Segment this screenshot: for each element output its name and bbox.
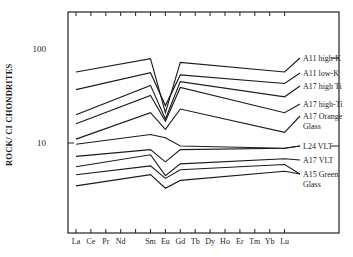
x-tick-label: La [72,237,81,246]
series-line [76,58,300,113]
series-line [76,82,300,119]
x-tick-label: Tb [191,237,200,246]
series-lines [76,58,300,188]
y-axis-ticks: 10100 [33,44,340,148]
ree-pattern-chart: LaCePrNdSmEuGdTbDyHoErTmYbLu 10100 A11 h… [0,0,353,257]
x-tick-label: Dy [205,237,215,246]
series-label: Glass [303,180,321,189]
series-line [76,87,300,123]
series-label: A17 VLT [303,156,334,165]
plot-frame [68,12,339,233]
series-label: L24 VLT [303,142,333,151]
series-label: A17 Orange [303,112,343,121]
series-line [76,165,300,179]
x-tick-label: Pr [102,237,109,246]
y-tick-label: 10 [37,138,47,148]
y-tick-label: 100 [33,44,47,54]
x-tick-label: Ce [86,237,95,246]
x-tick-label: Nd [116,237,126,246]
series-line [76,109,300,139]
series-label: A11 low-K [303,69,339,78]
series-label: Glass [303,122,321,131]
x-tick-label: Eu [161,237,170,246]
x-tick-label: Ho [220,237,230,246]
x-tick-label: Tm [249,237,261,246]
x-tick-label: Yb [265,237,275,246]
series-labels: A11 high-KA11 low-KA17 high TiA17 high-T… [303,54,343,189]
series-line [76,171,300,188]
series-label: A11 high-K [303,54,341,63]
x-tick-label: Sm [145,237,156,246]
series-line [76,135,300,149]
series-label: A17 high Ti [303,82,342,91]
x-tick-label: Lu [280,237,289,246]
series-label: A17 high-Ti [303,100,343,109]
x-tick-label: Gd [175,237,185,246]
series-label: A15 Green [303,170,338,179]
x-tick-label: Er [236,237,244,246]
